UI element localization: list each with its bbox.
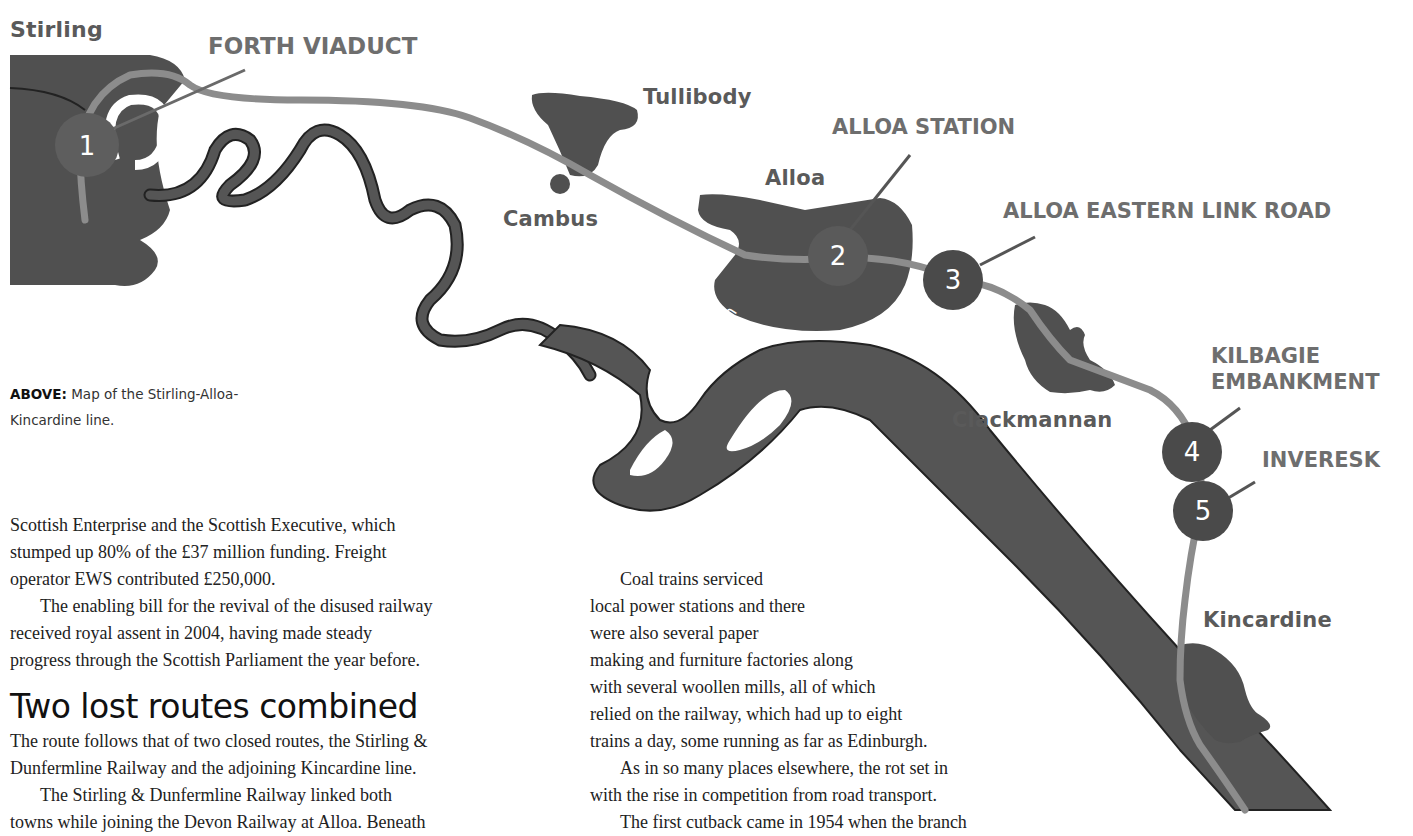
marker-4: 4	[1162, 422, 1222, 482]
article-right-column: Coal trains serviced local power station…	[590, 566, 967, 836]
section-heading: Two lost routes combined	[10, 687, 418, 727]
article-left-column: Scottish Enterprise and the Scottish Exe…	[10, 512, 432, 674]
paragraph: As in so many places elsewhere, the rot …	[590, 755, 967, 809]
paragraph: The route follows that of two closed rou…	[10, 728, 427, 782]
leader-3	[980, 237, 1035, 265]
svg-text:4: 4	[1184, 437, 1201, 467]
paragraph: The enabling bill for the revival of the…	[10, 593, 432, 674]
feature-label-kilbagie-line1: KILBAGIE	[1211, 343, 1380, 369]
paragraph: Coal trains serviced local power station…	[590, 566, 967, 755]
label-tullibody: Tullibody	[643, 85, 752, 109]
tullibody-area	[532, 93, 638, 177]
clackmannan-area	[1014, 303, 1115, 394]
marker-5: 5	[1173, 481, 1233, 541]
leader-4	[1210, 408, 1240, 430]
article-left-column-continued: The route follows that of two closed rou…	[10, 728, 427, 836]
marker-3: 3	[923, 250, 983, 310]
label-kincardine: Kincardine	[1203, 608, 1332, 632]
river-forth-upper	[150, 130, 590, 375]
label-cambus: Cambus	[503, 207, 598, 231]
label-alloa: Alloa	[765, 166, 825, 190]
feature-label-alloa-station: ALLOA STATION	[832, 114, 1015, 140]
feature-label-kilbagie-embankment: KILBAGIE EMBANKMENT	[1211, 343, 1380, 395]
feature-label-alloa-eastern-link-road: ALLOA EASTERN LINK ROAD	[1003, 198, 1331, 224]
feature-label-kilbagie-line2: EMBANKMENT	[1211, 369, 1380, 395]
svg-text:2: 2	[830, 241, 847, 271]
svg-text:1: 1	[79, 131, 96, 161]
paragraph: The Stirling & Dunfermline Railway linke…	[10, 782, 427, 836]
feature-label-forth-viaduct: FORTH VIADUCT	[208, 33, 417, 59]
feature-label-inveresk: INVERESK	[1262, 447, 1380, 473]
marker-2: 2	[808, 226, 868, 286]
cambus-dot	[550, 174, 570, 194]
svg-text:3: 3	[945, 265, 962, 295]
svg-text:5: 5	[1195, 496, 1212, 526]
caption-bold: ABOVE:	[10, 386, 67, 402]
label-stirling: Stirling	[10, 17, 103, 42]
paragraph: The first cutback came in 1954 when the …	[590, 809, 967, 836]
map-caption: ABOVE: Map of the Stirling-Alloa-Kincard…	[10, 381, 270, 433]
label-clackmannan: Clackmannan	[952, 408, 1112, 432]
paragraph: Scottish Enterprise and the Scottish Exe…	[10, 512, 432, 593]
marker-1: 1	[55, 113, 119, 177]
